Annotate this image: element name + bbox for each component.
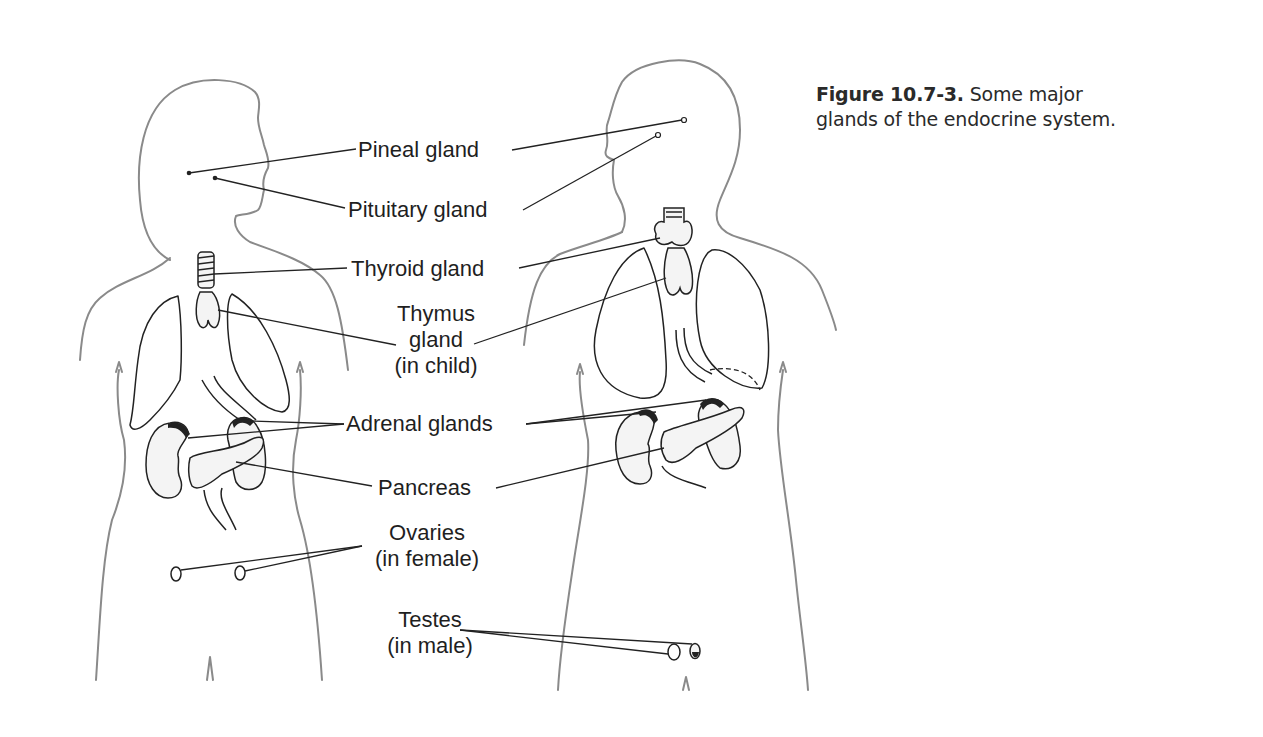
male-pubic-mark [683,677,689,690]
female-left-kidney [146,422,188,498]
male-thymus [664,248,692,295]
label-pineal-gland: Pineal gland [358,137,479,163]
male-head-outline [605,61,836,330]
caption-line2: glands of the endocrine system. [816,107,1116,132]
female-left-arm-line [96,370,125,680]
male-left-kidney [616,411,655,484]
endocrine-diagram: Pineal gland Pituitary gland Thyroid gla… [0,0,1263,737]
label-thymus-gland: Thymus gland (in child) [386,301,486,379]
female-right-lung [228,294,290,412]
label-ovaries-line2: (in female) [367,546,487,572]
female-head-outline [139,80,348,370]
caption-line1: Figure 10.7-3. Some major [816,82,1116,107]
label-testes-line1: Testes [375,607,485,633]
female-right-arm-line [293,370,322,680]
label-ovaries-line1: Ovaries [367,520,487,546]
female-pubic-mark [207,657,213,680]
label-thyroid-gland: Thyroid gland [351,256,484,282]
caption-line1-text: Some major [964,83,1083,105]
female-ovary-left [171,567,181,581]
male-left-lung [594,248,666,398]
label-thymus-line2: gland [386,327,486,353]
female-left-lung [130,296,181,429]
figure-number: Figure 10.7-3. [816,83,964,105]
male-pituitary-dot [656,133,661,138]
male-testis-left [668,644,680,660]
label-pancreas: Pancreas [378,475,471,501]
male-right-lung [696,250,768,388]
male-figure [524,61,836,690]
figure-caption: Figure 10.7-3. Some major glands of the … [816,82,1116,132]
female-thymus [196,292,219,328]
male-pineal-dot [682,118,687,123]
label-testes: Testes (in male) [375,607,485,659]
label-thymus-line1: Thymus [386,301,486,327]
label-testes-line2: (in male) [375,633,485,659]
label-ovaries: Ovaries (in female) [367,520,487,572]
male-right-torso-line [778,370,808,690]
label-pituitary-gland: Pituitary gland [348,197,487,223]
male-heart-dashed [710,369,760,390]
female-trachea [198,252,214,288]
label-adrenal-glands: Adrenal glands [346,411,493,437]
label-thymus-line3: (in child) [386,353,486,379]
female-ovary-right [235,566,245,580]
male-thyroid [655,208,692,246]
